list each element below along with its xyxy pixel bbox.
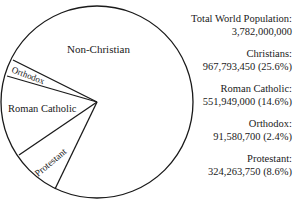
legend-value: 91,580,700 (2.4%) (142, 130, 292, 143)
legend-total: Total World Population: 3,782,000,000 (142, 12, 292, 38)
slice-label-roman-catholic: Roman Catholic (8, 103, 77, 114)
legend-value: 967,793,450 (25.6%) (142, 60, 292, 73)
slice-label-non-christian: Non-Christian (67, 43, 130, 55)
legend-value: 324,263,750 (8.6%) (142, 165, 292, 178)
legend-label: Total World Population: (142, 12, 292, 25)
legend-value: 551,949,000 (14.6%) (142, 95, 292, 108)
legend-label: Orthodox: (142, 117, 292, 130)
legend: Total World Population: 3,782,000,000 Ch… (142, 12, 292, 187)
legend-orthodox: Orthodox: 91,580,700 (2.4%) (142, 117, 292, 143)
legend-label: Christians: (142, 47, 292, 60)
legend-christians: Christians: 967,793,450 (25.6%) (142, 47, 292, 73)
legend-value: 3,782,000,000 (142, 25, 292, 38)
legend-label: Protestant: (142, 152, 292, 165)
legend-roman-catholic: Roman Catholic: 551,949,000 (14.6%) (142, 82, 292, 108)
legend-label: Roman Catholic: (142, 82, 292, 95)
legend-protestant: Protestant: 324,263,750 (8.6%) (142, 152, 292, 178)
